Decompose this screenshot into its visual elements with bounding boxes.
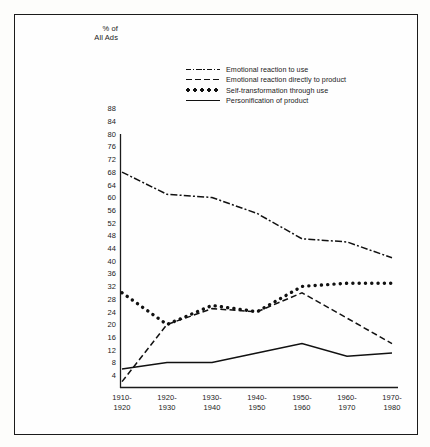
legend-item: Emotional reaction directly to product: [186, 75, 386, 86]
legend-label: Self-transformation through use: [226, 86, 328, 95]
legend-key-dotted-icon: [186, 86, 220, 95]
chart-legend: Emotional reaction to use Emotional reac…: [186, 64, 386, 106]
legend-label: Emotional reaction to use: [226, 65, 308, 74]
data-series-line: [122, 344, 392, 369]
data-series-line: [122, 172, 392, 258]
legend-key-dashed-icon: [186, 75, 220, 84]
chart-page: % of All Ads 888480767268646056524844403…: [0, 0, 430, 447]
axis-lines: [120, 134, 398, 388]
data-series-layer: [122, 172, 392, 382]
legend-key-dash-dot-icon: [186, 65, 220, 74]
legend-item: Self-transformation through use: [186, 85, 386, 96]
data-series-line: [122, 283, 392, 324]
legend-key-solid-icon: [186, 96, 220, 105]
data-series-line: [122, 293, 392, 382]
legend-label: Emotional reaction directly to product: [226, 75, 346, 84]
legend-label: Personification of product: [226, 96, 308, 105]
legend-item: Emotional reaction to use: [186, 64, 386, 75]
legend-item: Personification of product: [186, 96, 386, 107]
